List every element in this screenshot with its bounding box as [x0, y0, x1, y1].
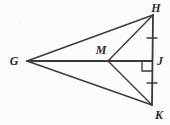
geometry-figure-svg: G H M J K — [0, 0, 170, 125]
geometry-figure-canvas: G H M J K — [0, 0, 170, 125]
segment-MK — [108, 61, 152, 105]
vertex-label-J: J — [156, 54, 164, 68]
segment-HK — [152, 15, 153, 105]
segment-MH — [108, 15, 153, 61]
segment-group — [27, 15, 153, 105]
vertex-label-M: M — [95, 43, 107, 57]
segment-GH — [27, 15, 153, 61]
vertex-label-G: G — [10, 54, 19, 68]
segment-GK — [27, 61, 152, 105]
vertex-label-K: K — [154, 108, 164, 122]
right-angle-icon — [142, 61, 152, 71]
vertex-label-H: H — [150, 1, 161, 15]
